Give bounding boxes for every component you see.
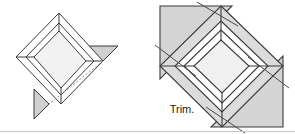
figure-left <box>16 13 118 119</box>
left-figure-triangle-bottom <box>34 89 49 119</box>
trim-label: Trim. <box>170 103 195 115</box>
diagram-page: Trim. <box>0 0 295 134</box>
figure-right: Trim. <box>155 2 289 133</box>
geometry-diagram: Trim. <box>0 0 295 134</box>
